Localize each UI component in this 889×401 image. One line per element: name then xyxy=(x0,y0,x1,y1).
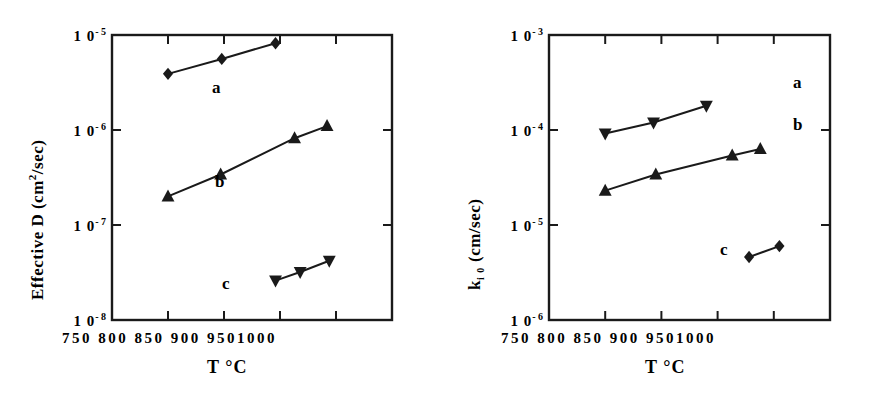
y-tick-label-3: 1 0- 5 xyxy=(487,216,543,235)
y-tick-label-4: 1 0- 8 xyxy=(50,311,106,330)
series-annotation-c: c xyxy=(720,240,728,260)
y-tick-label-2: 1 0- 4 xyxy=(487,121,543,140)
x-axis-label-left: T °C xyxy=(207,357,247,378)
data-point-c xyxy=(269,276,282,288)
data-point-b xyxy=(321,119,334,131)
series-annotation-b: b xyxy=(793,115,802,135)
chart-panel-right: ki 0 (cm/sec) 1 0- 3 1 0- 4 1 0- 5 1 0- … xyxy=(445,0,889,401)
series-annotation-a: a xyxy=(793,73,802,93)
x-tick-labels-row: 750 800 850 900 9501000 xyxy=(501,330,716,347)
y-axis-label-left: Effective D (cm2/sec) xyxy=(26,140,48,300)
y-axis-label-right: ki 0 (cm/sec) xyxy=(465,199,486,290)
figure-root: Effective D (cm2/sec) 1 0- 5 1 0- 6 1 0-… xyxy=(0,0,889,401)
data-point-a xyxy=(163,68,173,80)
y-tick-label-1: 1 0- 5 xyxy=(50,26,106,45)
y-tick-label-3: 1 0- 7 xyxy=(50,216,106,235)
data-point-b xyxy=(754,142,767,154)
data-point-c xyxy=(774,240,784,252)
y-tick-label-4: 1 0- 6 xyxy=(487,311,543,330)
x-axis-label-right: T °C xyxy=(645,357,685,378)
y-tick-label-2: 1 0- 6 xyxy=(50,121,106,140)
x-tick-labels-row: 750 800 850 900 9501000 xyxy=(62,330,277,347)
series-annotation-c: c xyxy=(222,274,230,294)
y-tick-label-1: 1 0- 3 xyxy=(487,26,543,45)
series-annotation-a: a xyxy=(212,78,221,98)
data-point-c xyxy=(744,251,754,263)
series-annotation-b: b xyxy=(215,172,224,192)
chart-panel-left: Effective D (cm2/sec) 1 0- 5 1 0- 6 1 0-… xyxy=(0,0,444,401)
data-point-a xyxy=(217,53,227,65)
data-point-a xyxy=(599,128,612,140)
